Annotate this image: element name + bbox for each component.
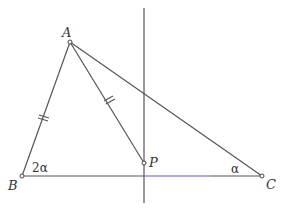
point-p [142,161,146,165]
geometry-diagram: A B C P 2α α [0,0,283,215]
point-b [20,174,24,178]
equal-mark-ap [104,96,115,104]
point-c [260,174,264,178]
angle-c-label: α [231,162,239,176]
segment-ap [70,42,144,163]
label-p: P [148,155,158,170]
label-b: B [7,178,18,193]
equal-mark-ab [38,115,49,121]
angle-b-label: 2α [32,161,48,175]
point-a [68,40,72,44]
segment-ab [22,42,70,176]
segment-ac [70,42,262,176]
label-a: A [61,25,71,40]
label-c: C [266,177,276,192]
